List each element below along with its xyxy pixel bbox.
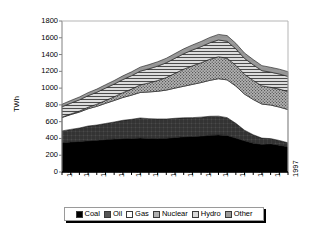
legend-label-other: Other xyxy=(234,210,253,218)
stacked-area-chart: TWh 020040060080010001200140016001800 19… xyxy=(0,0,314,242)
chart-legend: Coal Oil Gas Nuclear Hydro Other xyxy=(64,207,264,221)
legend-swatch-gas xyxy=(126,211,133,218)
plot-area xyxy=(0,0,314,242)
legend-label-gas: Gas xyxy=(135,210,149,218)
legend-label-coal: Coal xyxy=(85,210,100,218)
legend-item-nuclear[interactable]: Nuclear xyxy=(153,210,188,218)
legend-item-hydro[interactable]: Hydro xyxy=(192,210,221,218)
legend-item-other[interactable]: Other xyxy=(225,210,253,218)
legend-label-nuclear: Nuclear xyxy=(162,210,188,218)
legend-swatch-oil xyxy=(104,211,111,218)
legend-label-hydro: Hydro xyxy=(201,210,221,218)
legend-swatch-nuclear xyxy=(153,211,160,218)
legend-label-oil: Oil xyxy=(113,210,122,218)
legend-swatch-coal xyxy=(76,211,83,218)
legend-swatch-hydro xyxy=(192,211,199,218)
legend-item-gas[interactable]: Gas xyxy=(126,210,149,218)
legend-item-oil[interactable]: Oil xyxy=(104,210,122,218)
legend-item-coal[interactable]: Coal xyxy=(76,210,100,218)
legend-swatch-other xyxy=(225,211,232,218)
